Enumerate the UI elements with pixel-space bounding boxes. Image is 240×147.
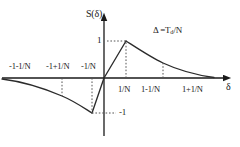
x-axis-label: δ	[226, 82, 231, 92]
curve-linear-segment	[92, 41, 126, 113]
curve-left-lobe	[2, 79, 92, 113]
x-tick-label-neg-1-minus-1N: -1-1/N	[9, 62, 30, 71]
x-tick-label-pos-1-minus-1N: 1-1/N	[141, 85, 160, 94]
annotation-suffix: /N	[173, 25, 182, 35]
x-tick-label-pos-1N: 1/N	[118, 85, 130, 94]
y-tick-label-negative-one: -1	[119, 108, 126, 117]
curve-right-lobe	[126, 41, 214, 78]
x-tick-label-neg-1N: -1/N	[81, 62, 96, 71]
plot-canvas	[0, 0, 240, 147]
figure-container: S(δ) δ 1 -1 -1-1/N -1+1/N -1/N 1/N 1-1/N…	[0, 0, 240, 147]
delta-definition-annotation: Δ =Td/N	[153, 26, 182, 36]
y-axis-label: S(δ)	[86, 9, 102, 19]
y-tick-label-positive-one: 1	[97, 36, 101, 45]
annotation-prefix: Δ =T	[153, 25, 170, 35]
x-tick-label-pos-1-plus-1N: 1+1/N	[182, 85, 203, 94]
x-tick-label-neg-1-plus-1N: -1+1/N	[46, 62, 69, 71]
